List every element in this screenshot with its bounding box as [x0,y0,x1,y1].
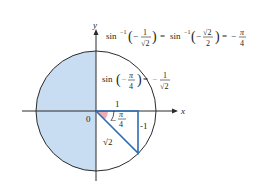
svg-text:4: 4 [129,82,133,91]
svg-text:4: 4 [119,120,123,129]
svg-text:−1: −1 [120,29,126,35]
svg-text:√2: √2 [203,28,211,37]
unit-circle-diagram: y x 0 1 -1 √2 − π 4 sin −1 ( − 1 √2 ) = … [0,0,265,191]
svg-text:−: − [152,74,157,84]
svg-text:sin: sin [102,74,113,84]
top-equation: sin −1 ( − 1 √2 ) = sin −1 ( − √2 2 ) = … [106,28,246,48]
svg-text:√2: √2 [160,82,168,91]
x-axis-label: x [180,106,185,116]
horizontal-leg-label: 1 [115,99,120,109]
svg-text:): ) [137,72,142,88]
svg-text:−1: −1 [184,29,190,35]
y-axis-label: y [92,20,97,30]
svg-text:−: − [231,31,236,41]
svg-text:4: 4 [240,39,244,48]
svg-text:−: − [196,31,201,41]
angle-label: − π 4 [111,110,126,129]
svg-text:2: 2 [206,39,210,48]
hypotenuse-label: √2 [103,137,112,147]
svg-text:1: 1 [163,71,167,80]
svg-text:=: = [143,74,148,84]
vertical-leg-label: -1 [140,121,148,131]
x-axis-arrow-icon [172,109,178,114]
svg-text:1: 1 [143,28,147,37]
svg-text:): ) [152,29,157,45]
svg-text:−: − [111,115,116,125]
svg-text:π: π [129,71,134,80]
mid-equation: sin ( − π 4 ) = − 1 √2 [102,71,170,91]
svg-text:=: = [222,31,227,41]
svg-text:sin: sin [170,31,181,41]
svg-text:−: − [133,31,138,41]
svg-text:=: = [160,31,165,41]
svg-text:π: π [240,28,245,37]
svg-text:): ) [215,29,220,45]
svg-text:sin: sin [106,31,117,41]
origin-label: 0 [86,114,91,124]
svg-text:−: − [121,74,126,84]
svg-text:√2: √2 [141,39,149,48]
